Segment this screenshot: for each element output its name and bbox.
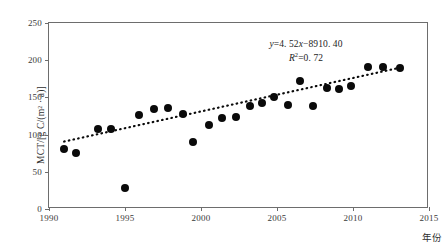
y-axis-tick: 50 (45, 172, 49, 173)
data-point (232, 113, 240, 121)
regression-equation: y=4. 52x−8910. 40 (250, 38, 362, 51)
y-axis-tick: 100 (45, 135, 49, 136)
plot-area (49, 23, 427, 207)
x-axis-tick (429, 207, 430, 211)
data-point (379, 63, 387, 71)
data-point (396, 64, 404, 72)
x-axis-title: 年份 (422, 230, 442, 244)
x-axis-tick-label: 1995 (116, 213, 135, 223)
data-point (284, 101, 292, 109)
y-axis-tick: 150 (45, 97, 49, 98)
data-point (258, 99, 266, 107)
data-point (94, 125, 102, 133)
regression-r-squared: R2=0. 72 (250, 51, 362, 65)
x-axis-tick-label: 1990 (40, 213, 59, 223)
data-point (72, 149, 80, 157)
data-point (323, 84, 331, 92)
plot-frame: 050100150200250199019952000200520102015 (48, 22, 428, 208)
y-axis-tick-label: 100 (28, 130, 42, 140)
x-axis-tick (49, 207, 50, 211)
data-point (164, 104, 172, 112)
data-point (121, 184, 129, 192)
y-axis-tick: 250 (45, 23, 49, 24)
data-point (347, 82, 355, 90)
data-point (218, 114, 226, 122)
y-axis-tick-label: 250 (28, 18, 42, 28)
x-axis-tick-label: 2005 (268, 213, 287, 223)
x-axis-tick-label: 2010 (344, 213, 363, 223)
y-axis-tick: 200 (45, 60, 49, 61)
data-point (205, 121, 213, 129)
data-point (335, 85, 343, 93)
data-point (179, 110, 187, 118)
x-axis-tick (125, 207, 126, 211)
data-point (150, 105, 158, 113)
chart-figure: MCT/[g C/(m² · a)] 年份 050100150200250199… (0, 0, 446, 249)
data-point (135, 111, 143, 119)
data-point (270, 93, 278, 101)
x-axis-tick-label: 2015 (420, 213, 439, 223)
x-axis-tick (277, 207, 278, 211)
y-axis-tick-label: 150 (28, 92, 42, 102)
data-point (189, 138, 197, 146)
data-point (60, 145, 68, 153)
y-axis-tick-label: 200 (28, 55, 42, 65)
x-axis-tick (201, 207, 202, 211)
x-axis-tick (353, 207, 354, 211)
data-point (364, 63, 372, 71)
x-axis-tick-label: 2000 (192, 213, 211, 223)
regression-annotation: y=4. 52x−8910. 40 R2=0. 72 (250, 38, 362, 65)
data-point (107, 125, 115, 133)
data-point (296, 77, 304, 85)
data-point (246, 102, 254, 110)
data-point (309, 102, 317, 110)
y-axis-tick-label: 50 (33, 167, 42, 177)
